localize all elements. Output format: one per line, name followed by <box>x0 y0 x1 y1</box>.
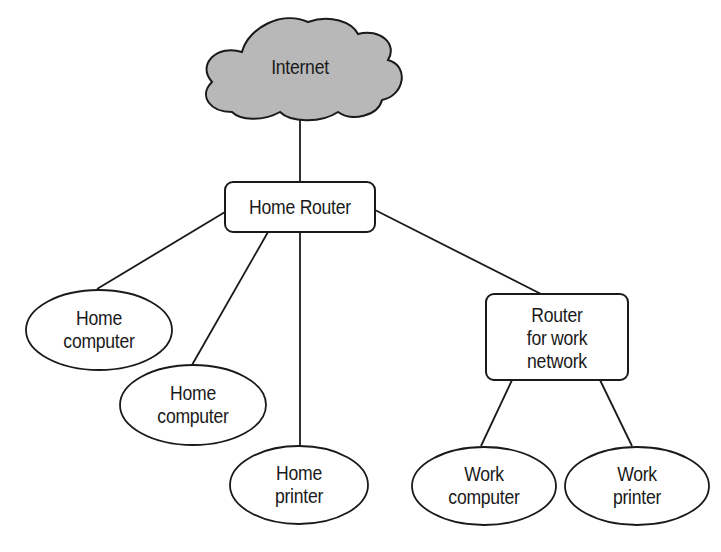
edge-work-router-work-computer <box>481 380 512 446</box>
node-home-router-label: Home Router <box>234 192 366 222</box>
node-home-printer-label: Home printer <box>242 459 356 511</box>
edge-home-router-home-computer-2 <box>192 232 268 365</box>
edge-home-router-work-router <box>375 210 543 295</box>
node-home-computer-1-label: Home computer <box>37 304 160 356</box>
node-work-computer-label: Work computer <box>422 460 545 512</box>
node-home-computer-2-label: Home computer <box>131 379 254 431</box>
node-internet-label: Internet <box>247 52 353 82</box>
node-work-printer-label: Work printer <box>575 460 698 512</box>
edge-home-router-home-computer-1 <box>97 212 225 289</box>
edge-work-router-work-printer <box>600 380 632 446</box>
node-work-router-label: Router for work network <box>495 302 620 374</box>
